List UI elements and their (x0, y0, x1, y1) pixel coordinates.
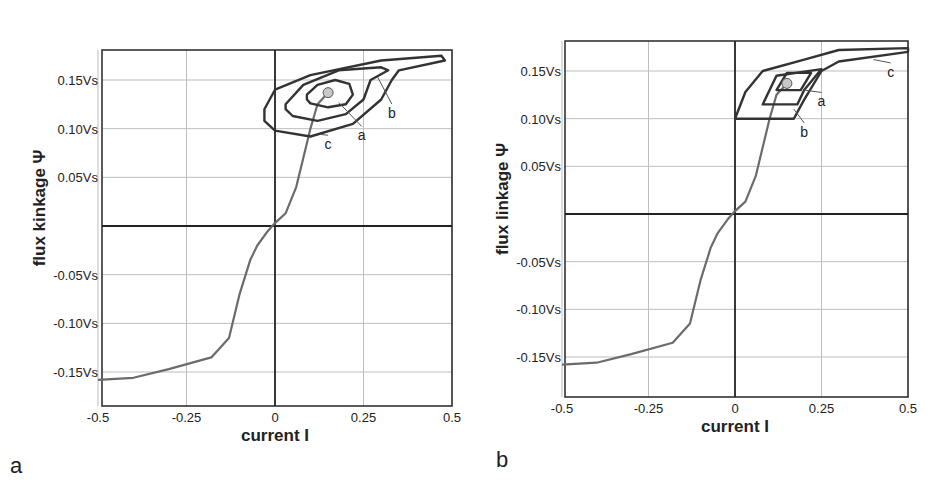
curve-label-a: a (818, 93, 826, 109)
chart-panel-b: -0.5-0.2500.250.50.15Vs0.10Vs0.05Vs-0.05… (493, 41, 917, 472)
x-tick-label: 0 (271, 410, 278, 425)
y-tick-label: -0.05Vs (53, 268, 98, 283)
y-tick-label: -0.15Vs (53, 365, 98, 380)
x-tick-label: 0.25 (351, 410, 376, 425)
panel-label: a (10, 453, 23, 478)
y-tick-label: 0.10Vs (58, 122, 99, 137)
annotation-leader (804, 90, 821, 92)
x-tick-label: -0.25 (172, 410, 202, 425)
curve-label-c: c (325, 136, 332, 152)
x-tick-label: 0.5 (443, 410, 461, 425)
operating-point-marker (323, 88, 333, 98)
x-axis-title: current I (701, 417, 769, 436)
y-tick-label: 0.15Vs (58, 73, 99, 88)
panel-label: b (496, 447, 508, 472)
y-tick-label: 0.10Vs (521, 112, 562, 127)
curve-label-b: b (388, 105, 396, 121)
chart-panel-a: -0.5-0.2500.250.50.15Vs0.10Vs0.05Vs-0.05… (10, 50, 461, 478)
magnetization-curve (562, 83, 787, 364)
x-axis-title: current I (241, 426, 309, 445)
operating-point-marker (782, 78, 792, 88)
curve-label-c: c (887, 64, 894, 80)
y-axis-title: flux linkage Ψ (493, 143, 512, 255)
x-tick-label: 0.5 (899, 401, 917, 416)
y-tick-label: -0.10Vs (53, 316, 98, 331)
annotation-leader (873, 60, 890, 63)
x-tick-label: -0.25 (634, 401, 664, 416)
y-tick-label: -0.10Vs (516, 302, 561, 317)
x-tick-label: 0.25 (809, 401, 834, 416)
curve-label-b: b (800, 124, 808, 140)
y-tick-label: 0.05Vs (521, 159, 562, 174)
y-tick-label: -0.05Vs (516, 255, 561, 270)
y-tick-label: 0.05Vs (58, 170, 99, 185)
plot-frame (102, 50, 452, 406)
y-tick-label: -0.15Vs (516, 350, 561, 365)
loop-b (286, 67, 389, 121)
plot-frame (565, 41, 908, 397)
magnetization-curve (98, 93, 328, 380)
y-axis-title: flux kinkage Ψ (30, 150, 49, 267)
x-tick-label: -0.5 (87, 410, 109, 425)
figure-canvas: -0.5-0.2500.250.50.15Vs0.10Vs0.05Vs-0.05… (0, 0, 933, 492)
x-tick-label: -0.5 (551, 401, 573, 416)
annotation-leader (321, 135, 328, 136)
curve-label-a: a (358, 127, 366, 143)
x-tick-label: 0 (731, 401, 738, 416)
y-tick-label: 0.15Vs (521, 64, 562, 79)
